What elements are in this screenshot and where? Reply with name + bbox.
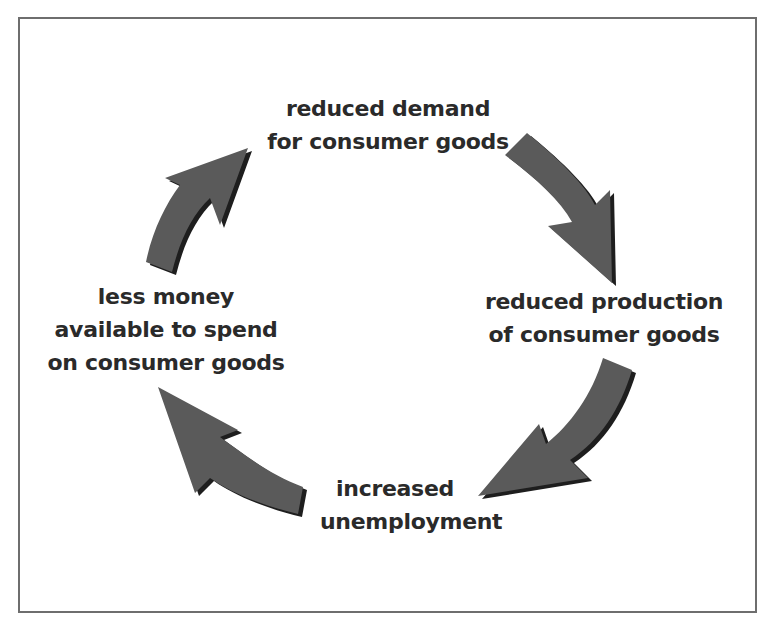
node-less-money: less money available to spend on consume… (38, 280, 294, 379)
node-increased-unemployment: increased unemployment (320, 472, 470, 538)
node-line: unemployment (320, 505, 470, 538)
node-line: reduced production (466, 285, 742, 318)
node-line: of consumer goods (466, 318, 742, 351)
curved-arrow-up-left-icon (158, 387, 307, 517)
node-line: reduced demand (248, 92, 528, 125)
node-reduced-production: reduced production of consumer goods (466, 285, 742, 351)
node-line: less money (38, 280, 294, 313)
curved-arrow-down-left-icon (478, 358, 636, 499)
node-reduced-demand: reduced demand for consumer goods (248, 92, 528, 158)
curved-arrow-up-right-icon (146, 148, 252, 275)
node-line: increased (320, 472, 470, 505)
node-line: on consumer goods (38, 346, 294, 379)
node-line: available to spend (38, 313, 294, 346)
node-line: for consumer goods (248, 125, 528, 158)
